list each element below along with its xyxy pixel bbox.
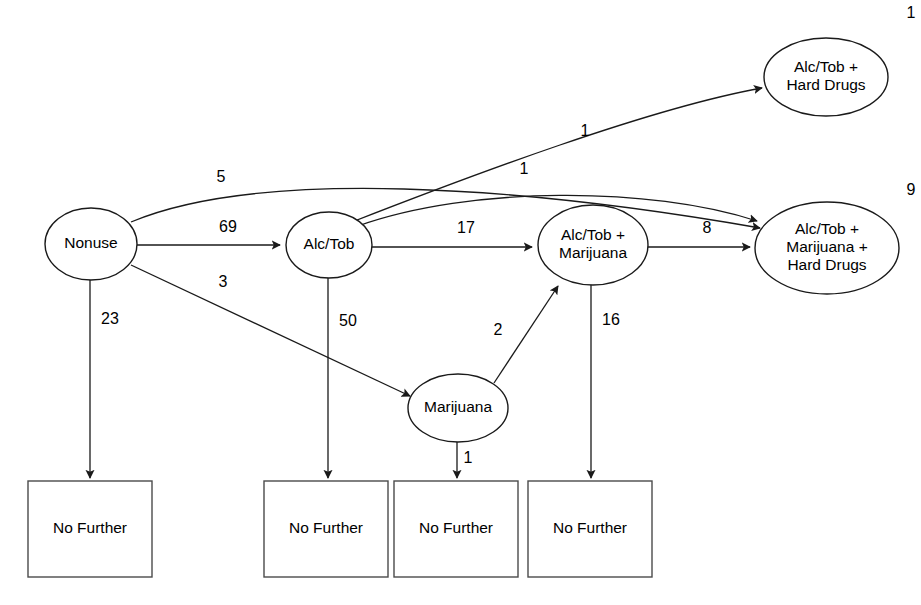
node-label-alc_tob_marijuana_hard_drugs: Alc/Tob + [795,220,859,237]
edge-label-alc_tob-to-alc_tob_hard_drugs: 1 [581,122,590,139]
node-label-alc_tob_marijuana: Marijuana [559,244,627,261]
node-label-alc_tob_hard_drugs: Hard Drugs [786,76,865,93]
edge-label-alc_tob-to-no_further_2: 50 [339,312,357,329]
node-alc_tob_hard_drugs[interactable]: Alc/Tob +Hard Drugs [764,38,888,116]
state-transition-diagram: No FurtherNo FurtherNo FurtherNo Further… [0,0,921,605]
terminal-node-no_further_2[interactable]: No Further [264,481,388,577]
edge-label-nonuse-to-marijuana: 3 [219,273,228,290]
nodes-layer: NonuseAlc/TobAlc/Tob +Hard DrugsAlc/Tob … [45,38,899,442]
diagram-canvas: No FurtherNo FurtherNo FurtherNo Further… [0,0,921,605]
terminal-box-label: No Further [53,519,127,536]
edge-label-alc_tob-to-alc_tob_marijuana_hard_drugs: 1 [520,160,529,177]
node-label-marijuana: Marijuana [424,398,492,415]
edge-label-alc_tob_marijuana-to-no_further_4: 16 [602,311,620,328]
node-label-alc_tob_marijuana_hard_drugs: Marijuana + [786,238,867,255]
terminal-box-label: No Further [419,519,493,536]
node-label-alc_tob_marijuana_hard_drugs: Hard Drugs [787,256,866,273]
node-alc_tob_marijuana[interactable]: Alc/Tob +Marijuana [538,205,648,285]
terminal-node-no_further_3[interactable]: No Further [394,481,518,577]
node-marijuana[interactable]: Marijuana [408,374,508,442]
terminal-box-label: No Further [553,519,627,536]
edge-label-alc_tob-to-alc_tob_marijuana: 17 [457,219,475,236]
edge-label-alc_tob_marijuana-to-alc_tob_marijuana_hard_drugs: 8 [703,219,712,236]
node-count-label-alc_tob_marijuana_hard_drugs: 9 [907,181,916,198]
edge-label-marijuana-to-no_further_3: 1 [464,449,473,466]
node-label-nonuse: Nonuse [64,234,117,251]
node-label-alc_tob_hard_drugs: Alc/Tob + [794,58,858,75]
terminal-box-label: No Further [289,519,363,536]
edge-nonuse-to-marijuana [131,265,410,396]
node-count-label-alc_tob_hard_drugs: 1 [907,4,916,21]
node-nonuse[interactable]: Nonuse [45,208,137,280]
node-label-alc_tob: Alc/Tob [304,235,355,252]
node-label-alc_tob_marijuana: Alc/Tob + [561,226,625,243]
terminal-node-no_further_1[interactable]: No Further [28,481,152,577]
edge-marijuana-to-alc_tob_marijuana [494,286,558,383]
node-alc_tob[interactable]: Alc/Tob [286,212,372,278]
terminal-boxes-layer: No FurtherNo FurtherNo FurtherNo Further [28,481,652,577]
node-alc_tob_marijuana_hard_drugs[interactable]: Alc/Tob +Marijuana +Hard Drugs [755,202,899,294]
edge-label-nonuse-to-alc_tob: 69 [219,218,237,235]
edge-alc_tob-to-alc_tob_hard_drugs [352,88,762,222]
edge-label-nonuse-to-alc_tob_marijuana_hard_drugs: 5 [217,168,226,185]
edge-label-nonuse-to-no_further_1: 23 [101,310,119,327]
terminal-node-no_further_4[interactable]: No Further [528,481,652,577]
edge-label-marijuana-to-alc_tob_marijuana: 2 [494,321,503,338]
